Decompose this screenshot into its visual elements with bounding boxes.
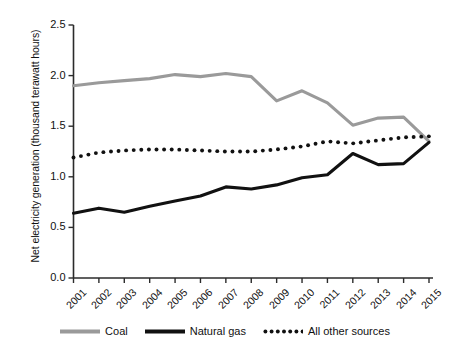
legend-swatch-icon xyxy=(145,326,185,337)
legend-item-coal[interactable]: Coal xyxy=(60,325,128,337)
legend-label: All other sources xyxy=(308,325,390,337)
series-natural-gas xyxy=(74,142,430,213)
y-axis-label: Net electricity generation (thousand ter… xyxy=(29,16,41,276)
legend-item-natural-gas[interactable]: Natural gas xyxy=(145,325,246,337)
axes xyxy=(69,25,434,283)
y-tick-label: 1.5 xyxy=(36,119,66,131)
chart-legend: CoalNatural gasAll other sources xyxy=(0,325,450,337)
series-all-other-sources xyxy=(72,134,431,159)
y-tick-label: 1.0 xyxy=(36,170,66,182)
legend-item-all-other-sources[interactable]: All other sources xyxy=(263,325,390,337)
legend-swatch-icon xyxy=(263,326,303,337)
y-tick-label: 2.5 xyxy=(36,18,66,30)
series-coal xyxy=(74,74,430,142)
chart-figure: Net electricity generation (thousand ter… xyxy=(0,0,450,351)
legend-swatch-icon xyxy=(60,326,100,337)
legend-label: Coal xyxy=(105,325,128,337)
data-series xyxy=(72,74,431,214)
legend-label: Natural gas xyxy=(190,325,246,337)
y-tick-label: 2.0 xyxy=(36,69,66,81)
y-tick-label: 0.0 xyxy=(36,271,66,283)
y-tick-label: 0.5 xyxy=(36,220,66,232)
